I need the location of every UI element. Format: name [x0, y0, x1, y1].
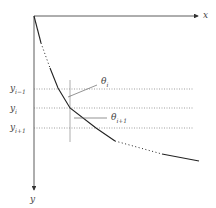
curve-dotted-2 [115, 141, 162, 154]
theta-i-leader [68, 85, 97, 97]
level-label-i-plus-1: yi+1 [10, 123, 26, 134]
x-axis-label: x [203, 11, 208, 20]
curve-segment-1 [34, 16, 41, 43]
level-label-i-minus-1: yi−1 [10, 84, 26, 95]
curve-dotted-1 [41, 43, 50, 68]
curve-segment-3 [162, 154, 199, 161]
theta-i-label: θi [101, 77, 108, 88]
level-label-i: yi [10, 104, 17, 115]
y-axis-label: y [30, 195, 35, 204]
diagram-canvas [0, 0, 216, 208]
theta-i-plus-1-label: θi+1 [111, 113, 127, 124]
